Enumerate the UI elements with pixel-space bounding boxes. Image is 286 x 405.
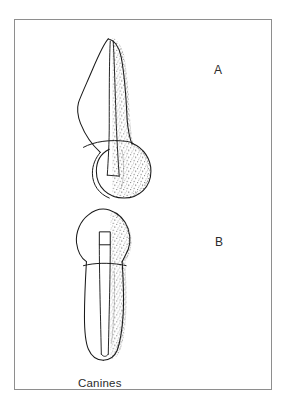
figure-caption: Canines xyxy=(78,378,122,390)
tooth-illustration-canvas xyxy=(15,20,271,389)
specimen-b-canine xyxy=(76,207,138,364)
specimen-b-pulp-chamber xyxy=(99,232,110,245)
figure-page: A B Canines xyxy=(0,0,286,405)
figure-frame-border: A B Canines xyxy=(14,19,272,390)
specimen-label-a: A xyxy=(214,64,222,76)
specimen-a-canine xyxy=(77,38,153,201)
specimen-label-b: B xyxy=(215,236,223,248)
specimen-a-stipple-shading xyxy=(106,38,154,201)
